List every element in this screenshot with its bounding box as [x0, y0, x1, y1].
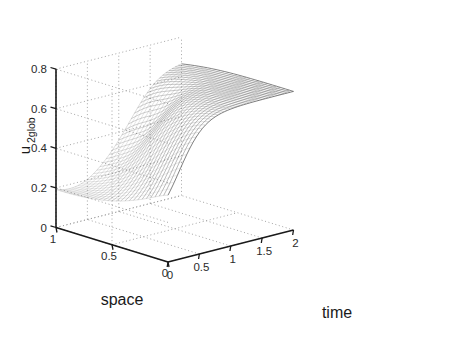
z-tick-label-0: 0 — [41, 222, 47, 234]
space-tick-label-1: 0.5 — [101, 250, 117, 262]
z-axis-title-base: u — [16, 146, 33, 154]
time-tick-label-2: 1 — [230, 253, 236, 265]
space-tick-label-2: 1 — [50, 233, 56, 245]
time-tick-label-4: 2 — [292, 237, 298, 249]
plot-background — [0, 0, 451, 358]
space-axis-title: space — [101, 291, 144, 308]
z-tick-label-2: 0.4 — [31, 142, 48, 154]
z-tick-label-3: 0.6 — [31, 103, 47, 115]
z-tick-label-1: 0.2 — [31, 182, 47, 194]
time-tick-label-1: 0.5 — [193, 261, 209, 273]
time-tick-label-0: 0 — [167, 269, 173, 281]
plot-canvas: 00.20.40.60.800.5100.511.52 space time u… — [0, 0, 451, 358]
z-axis-title-subscript: 2glob — [25, 117, 37, 143]
time-axis-title: time — [322, 304, 352, 321]
z-tick-label-4: 0.8 — [31, 63, 47, 75]
surface-plot-figure: 00.20.40.60.800.5100.511.52 space time u… — [0, 0, 451, 358]
time-tick-label-3: 1.5 — [256, 245, 272, 257]
